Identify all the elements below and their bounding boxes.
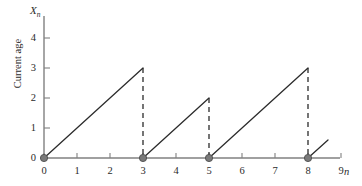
x-tick-label-0: 0 bbox=[41, 166, 46, 177]
drop-segments bbox=[143, 68, 308, 158]
x-tick-label-7: 7 bbox=[272, 166, 277, 177]
y-tick-label-0: 0 bbox=[26, 153, 36, 164]
ramp-segment-3 bbox=[209, 68, 308, 158]
renewal-marker-3 bbox=[139, 154, 146, 161]
x-tick-label-6: 6 bbox=[239, 166, 244, 177]
chart-figure: Xn n Current age 0 1 2 3 4 5 6 7 8 9 0 1… bbox=[0, 0, 362, 186]
y-axis-symbol: Xn bbox=[30, 4, 40, 19]
y-axis-symbol-base: X bbox=[30, 4, 37, 16]
x-tick-label-9: 9 bbox=[338, 166, 343, 177]
y-axis-symbol-subscript: n bbox=[37, 10, 41, 19]
y-tick-label-1: 1 bbox=[26, 123, 36, 134]
renewal-marker-5 bbox=[205, 154, 212, 161]
x-tick-label-1: 1 bbox=[74, 166, 79, 177]
y-axis-title: Current age bbox=[12, 9, 23, 119]
axes-group bbox=[44, 16, 340, 158]
x-axis-label: n bbox=[344, 166, 349, 177]
ramp-segments bbox=[44, 68, 328, 158]
y-tick-label-3: 3 bbox=[26, 63, 36, 74]
ramp-segment-2 bbox=[143, 98, 209, 158]
renewal-marker-8 bbox=[304, 154, 311, 161]
x-tick-label-5: 5 bbox=[206, 166, 211, 177]
x-tick-label-2: 2 bbox=[107, 166, 112, 177]
y-axis-ticks bbox=[44, 38, 50, 128]
y-tick-label-2: 2 bbox=[26, 93, 36, 104]
x-tick-label-3: 3 bbox=[140, 166, 145, 177]
x-tick-label-8: 8 bbox=[305, 166, 310, 177]
y-tick-label-4: 4 bbox=[26, 33, 36, 44]
sawtooth-plot bbox=[0, 0, 362, 186]
renewal-marker-0 bbox=[40, 154, 47, 161]
x-tick-label-4: 4 bbox=[173, 166, 178, 177]
ramp-segment-1 bbox=[44, 68, 143, 158]
